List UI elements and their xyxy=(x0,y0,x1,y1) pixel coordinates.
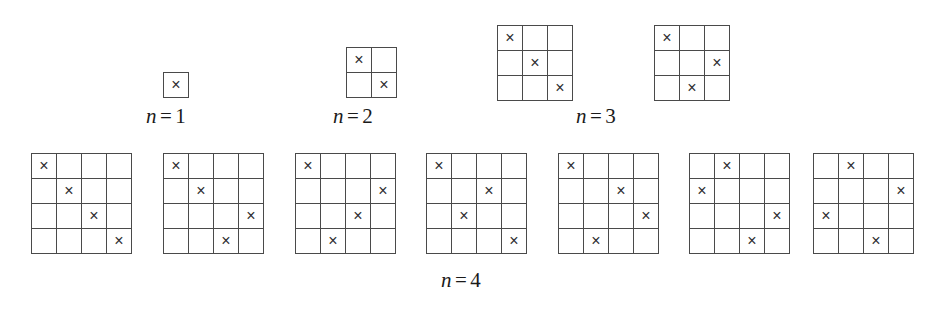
cell-empty-r2-c2 xyxy=(584,179,609,204)
cell-empty-r2-c3 xyxy=(548,51,573,76)
cell-empty-r1-c2 xyxy=(321,154,346,179)
cell-empty-r1-c1 xyxy=(690,154,715,179)
cell-marked-r2-c2: × xyxy=(523,51,548,76)
cell-marked-r2-c2: × xyxy=(189,179,214,204)
cross-icon: × xyxy=(321,229,345,253)
cell-empty-r1-c3 xyxy=(548,26,573,51)
cell-empty-r4-c2 xyxy=(57,229,82,254)
cell-empty-r3-c3 xyxy=(705,76,730,101)
cell-empty-r3-c2 xyxy=(189,204,214,229)
cross-icon: × xyxy=(214,229,238,253)
label-equals: = xyxy=(452,268,470,292)
cross-icon: × xyxy=(864,229,888,253)
cell-marked-r3-c4: × xyxy=(239,204,264,229)
cell-empty-r2-c1 xyxy=(498,51,523,76)
cell-empty-r2-c4 xyxy=(107,179,132,204)
cell-empty-r1-c2 xyxy=(57,154,82,179)
cross-icon: × xyxy=(296,154,320,178)
cell-empty-r2-c2 xyxy=(839,179,864,204)
cell-empty-r2-c3 xyxy=(864,179,889,204)
cell-marked-r1-c1: × xyxy=(296,154,321,179)
cell-marked-r3-c2: × xyxy=(452,204,477,229)
label-value: 2 xyxy=(362,104,373,128)
cell-empty-r4-c3 xyxy=(477,229,502,254)
cell-empty-r2-c4 xyxy=(239,179,264,204)
cross-icon: × xyxy=(814,204,838,228)
cell-empty-r3-c1 xyxy=(655,76,680,101)
cell-empty-r4-c1 xyxy=(559,229,584,254)
cross-icon: × xyxy=(452,204,476,228)
cross-icon: × xyxy=(609,179,633,203)
cell-marked-r3-c3: × xyxy=(82,204,107,229)
cell-marked-r2-c4: × xyxy=(371,179,396,204)
cell-empty-r1-c4 xyxy=(239,154,264,179)
cell-empty-r2-c1 xyxy=(296,179,321,204)
cell-empty-r2-c1 xyxy=(655,51,680,76)
cross-icon: × xyxy=(559,154,583,178)
cell-empty-r3-c2 xyxy=(584,204,609,229)
cross-icon: × xyxy=(584,229,608,253)
cross-icon: × xyxy=(690,179,714,203)
cell-empty-r3-c2 xyxy=(715,204,740,229)
cell-empty-r4-c1 xyxy=(427,229,452,254)
label-n3: n=3 xyxy=(576,104,616,129)
cell-empty-r3-c1 xyxy=(498,76,523,101)
cell-empty-r1-c3 xyxy=(864,154,889,179)
cross-icon: × xyxy=(427,154,451,178)
label-n2: n=2 xyxy=(333,104,373,129)
cell-empty-r4-c4 xyxy=(371,229,396,254)
cell-empty-r3-c1 xyxy=(164,204,189,229)
cell-empty-r3-c3 xyxy=(477,204,502,229)
cell-marked-r1-c2: × xyxy=(839,154,864,179)
cell-empty-r1-c4 xyxy=(502,154,527,179)
cell-empty-r2-c2 xyxy=(715,179,740,204)
cell-empty-r1-c3 xyxy=(705,26,730,51)
cell-empty-r2-c2 xyxy=(680,51,705,76)
grid-n4-4: ×××× xyxy=(426,153,527,254)
cell-empty-r2-c4 xyxy=(502,179,527,204)
cell-empty-r1-c3 xyxy=(740,154,765,179)
grid-n3-1: ××× xyxy=(497,25,573,101)
cell-empty-r2-c3 xyxy=(740,179,765,204)
cross-icon: × xyxy=(502,229,526,253)
cross-icon: × xyxy=(82,204,106,228)
cross-icon: × xyxy=(372,73,396,97)
cell-empty-r1-c2 xyxy=(189,154,214,179)
cell-marked-r4-c2: × xyxy=(321,229,346,254)
cell-empty-r3-c1 xyxy=(427,204,452,229)
grid-n4-7: ×××× xyxy=(813,153,914,254)
cell-empty-r4-c2 xyxy=(452,229,477,254)
permutation-grids-figure: ×n=1××n=2××××××n=3××××××××××××××××××××××… xyxy=(0,0,934,316)
cell-empty-r2-c3 xyxy=(82,179,107,204)
cross-icon: × xyxy=(164,154,188,178)
cell-empty-r4-c4 xyxy=(889,229,914,254)
label-equals: = xyxy=(344,104,362,128)
cell-empty-r4-c4 xyxy=(239,229,264,254)
cell-empty-r3-c4 xyxy=(107,204,132,229)
cell-marked-r4-c3: × xyxy=(214,229,239,254)
cell-empty-r2-c2 xyxy=(452,179,477,204)
cell-marked-r4-c3: × xyxy=(864,229,889,254)
label-n4: n=4 xyxy=(441,268,481,293)
cross-icon: × xyxy=(655,26,679,50)
label-value: 3 xyxy=(605,104,616,128)
cross-icon: × xyxy=(839,154,863,178)
cell-empty-r3-c2 xyxy=(523,76,548,101)
cell-marked-r4-c2: × xyxy=(584,229,609,254)
cell-marked-r2-c2: × xyxy=(372,73,397,98)
cell-empty-r1-c4 xyxy=(765,154,790,179)
cell-marked-r2-c3: × xyxy=(609,179,634,204)
cell-marked-r2-c3: × xyxy=(705,51,730,76)
cell-empty-r3-c3 xyxy=(214,204,239,229)
cell-empty-r2-c3 xyxy=(214,179,239,204)
cross-icon: × xyxy=(889,179,913,203)
cross-icon: × xyxy=(740,229,764,253)
label-equals: = xyxy=(587,104,605,128)
cell-empty-r1-c3 xyxy=(214,154,239,179)
label-equals: = xyxy=(157,104,175,128)
cell-marked-r1-c1: × xyxy=(347,48,372,73)
cross-icon: × xyxy=(239,204,263,228)
cell-empty-r1-c2 xyxy=(452,154,477,179)
cell-empty-r3-c1 xyxy=(32,204,57,229)
cell-marked-r2-c2: × xyxy=(57,179,82,204)
